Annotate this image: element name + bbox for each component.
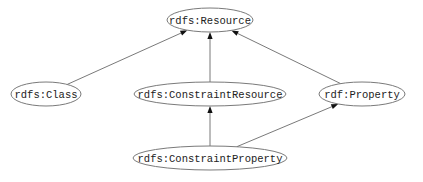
arrowhead-icon: [207, 106, 212, 113]
edge-constraint_property-to-property: [237, 104, 339, 147]
node-rdf-property[interactable]: rdf:Property: [319, 82, 405, 106]
node-label: rdfs:Class: [14, 89, 77, 101]
node-rdfs-constraint-resource[interactable]: rdfs:ConstraintResource: [134, 82, 286, 106]
edge-class-to-resource: [67, 30, 187, 84]
arrowhead-icon: [207, 32, 212, 39]
edge-line: [238, 33, 341, 83]
nodes-layer: rdfs:Resource rdfs:Class rdfs:Constraint…: [11, 8, 405, 170]
node-rdfs-resource[interactable]: rdfs:Resource: [167, 8, 253, 32]
rdf-schema-diagram: rdfs:Resource rdfs:Class rdfs:Constraint…: [0, 0, 423, 182]
edge-constraint_property-to-constraint_resource: [207, 106, 212, 146]
arrowhead-icon: [231, 30, 238, 35]
edge-constraint_resource-to-resource: [207, 32, 212, 82]
node-rdfs-class[interactable]: rdfs:Class: [11, 82, 81, 106]
node-rdfs-constraint-property[interactable]: rdfs:ConstraintProperty: [133, 146, 287, 170]
edge-line: [237, 107, 332, 147]
edge-property-to-resource: [231, 30, 340, 83]
node-label: rdfs:Resource: [169, 15, 251, 27]
node-label: rdfs:ConstraintResource: [138, 89, 283, 101]
arrowhead-icon: [180, 30, 187, 35]
node-label: rdf:Property: [324, 89, 400, 101]
node-label: rdfs:ConstraintProperty: [138, 153, 283, 165]
edge-line: [67, 33, 181, 84]
arrowhead-icon: [331, 104, 338, 109]
